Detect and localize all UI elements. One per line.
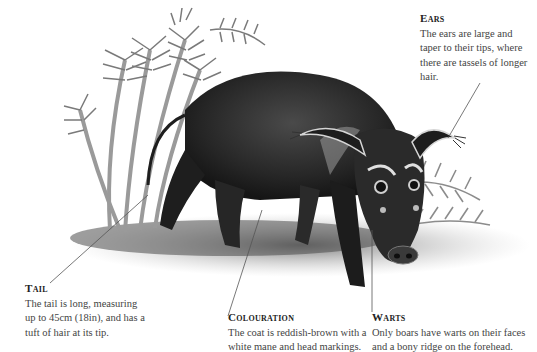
ears-callout: Ears The ears are large and taper to the… — [420, 11, 535, 85]
warts-description: Only boars have warts on their faces and… — [372, 326, 537, 352]
ears-heading: Ears — [420, 11, 535, 26]
tail-description: The tail is long, measuring up to 45cm (… — [25, 297, 145, 341]
ears-description: The ears are large and taper to their ti… — [420, 27, 535, 85]
warts-callout: Warts Only boars have warts on their fac… — [372, 310, 537, 352]
ears-leader — [448, 83, 480, 138]
tail-callout: Tail The tail is long, measuring up to 4… — [25, 281, 145, 340]
colouration-heading: Colouration — [228, 310, 388, 325]
warts-heading: Warts — [372, 310, 537, 325]
tail-heading: Tail — [25, 281, 145, 296]
colouration-callout: Colouration The coat is reddish-brown wi… — [228, 310, 388, 352]
colouration-description: The coat is reddish-brown with a white m… — [228, 326, 388, 352]
